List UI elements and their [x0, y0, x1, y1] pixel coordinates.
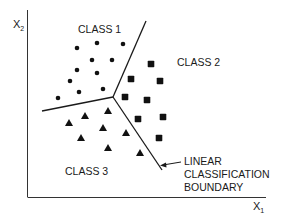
circle-point: [101, 87, 106, 92]
boundary-label-line3: BOUNDARY: [184, 181, 243, 193]
circle-point: [110, 58, 115, 63]
square-point: [157, 78, 164, 85]
boundary-label-line1: LINEAR: [184, 155, 222, 167]
triangle-point: [81, 112, 89, 119]
class3-points: [65, 107, 144, 156]
triangle-point: [77, 134, 85, 141]
circle-point: [95, 71, 100, 76]
y-axis-label: X2: [13, 18, 24, 32]
circle-point: [77, 90, 82, 95]
square-point: [148, 61, 155, 68]
circle-point: [56, 96, 61, 101]
square-point: [160, 114, 167, 121]
circle-point: [75, 46, 80, 51]
triangle-point: [136, 149, 144, 156]
triangle-point: [99, 124, 107, 131]
triangle-point: [104, 144, 112, 151]
square-point: [135, 116, 142, 123]
square-point: [156, 135, 163, 142]
circle-point: [95, 41, 100, 46]
class2-label: CLASS 2: [177, 56, 220, 68]
circle-point: [75, 68, 80, 73]
class2-points: [122, 61, 167, 142]
square-point: [122, 94, 129, 101]
triangle-point: [122, 129, 130, 136]
circle-point: [121, 42, 126, 47]
circle-point: [68, 79, 73, 84]
x-axis-label: X1: [253, 200, 264, 214]
square-point: [128, 76, 135, 83]
circle-point: [90, 58, 95, 63]
classification-diagram: X2 X1 CLASS 1 CLASS 2 CLASS 3 LINEAR CLA…: [0, 0, 287, 219]
triangle-point: [104, 107, 112, 114]
class3-label: CLASS 3: [65, 165, 108, 177]
linear-classification-boundary: [42, 21, 162, 170]
triangle-point: [65, 119, 73, 126]
square-point: [144, 97, 151, 104]
boundary-arrow: [160, 162, 181, 168]
class1-label: CLASS 1: [78, 23, 121, 35]
boundary-label-line2: CLASSIFICATION: [184, 168, 270, 180]
